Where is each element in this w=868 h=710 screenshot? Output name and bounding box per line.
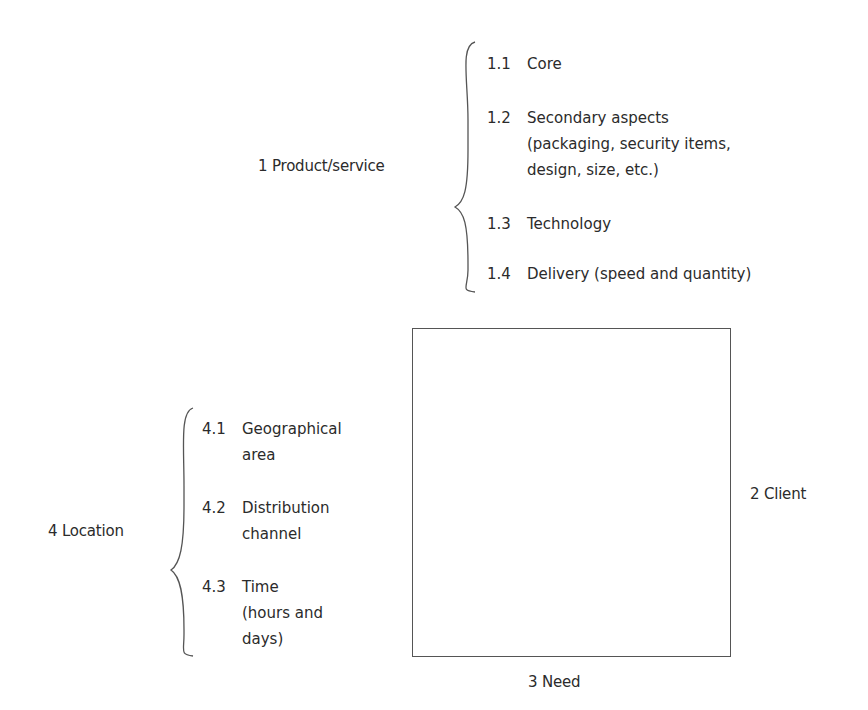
product-service-label: 1 Product/service xyxy=(258,157,385,176)
central-square xyxy=(412,328,731,657)
client-label: 2 Client xyxy=(750,485,806,504)
product-service-brace xyxy=(450,40,480,295)
location-brace xyxy=(168,406,198,658)
need-label: 3 Need xyxy=(528,673,580,692)
location-label: 4 Location xyxy=(48,522,124,541)
